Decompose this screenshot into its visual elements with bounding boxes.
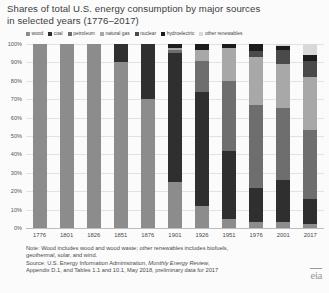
bar-stack [303,44,317,228]
bar-segment-petroleum [303,130,317,198]
y-axis-tick-label: 70% [11,96,22,102]
bar-segment-coal [222,151,236,219]
bar-column-1926 [189,44,216,228]
y-axis-tick-label: 10% [11,207,22,213]
x-axis-tick-label: 2017 [297,231,324,239]
bar-column-1851 [107,44,134,228]
bar-column-1776 [26,44,53,228]
source-line-1-post: , [208,260,210,266]
x-axis: 1776180118261851187619011926195119762001… [26,231,324,241]
bar-segment-coal [195,92,209,206]
bar-segment-petroleum [195,61,209,92]
y-axis-tick-label: 100% [8,41,22,47]
bar-segment-coal [249,188,263,223]
note-line-2: geothermal, solar, and wind. [26,252,294,259]
bar-stack [222,44,236,228]
bar-segment-petroleum [249,105,263,188]
legend-swatch-icon [100,32,104,36]
bar-segment-wood [33,44,47,228]
x-axis-tick-label: 1926 [189,231,216,239]
bar-stack [114,44,128,228]
bar-column-2001 [270,44,297,228]
bar-segment-wood [195,206,209,228]
x-axis-tick-label: 1901 [161,231,188,239]
bar-segment-natural-gas [249,57,263,105]
legend-label: wood [32,31,44,37]
bar-segment-nuclear [303,61,317,78]
bar-segment-natural-gas [276,64,290,108]
bar-segment-coal [303,199,317,225]
chart-title-line-2: in selected years (1776–2017) [7,15,317,27]
y-axis-tick-label: 40% [11,151,22,157]
chart-title-line-1: Shares of total U.S. energy consumption … [7,3,317,15]
grid-line [26,228,324,229]
x-axis-tick-label: 1876 [134,231,161,239]
source-line-1-pre: Source: U.S. Energy Information Administ… [26,260,148,266]
bar-segment-wood [87,44,101,228]
legend-item-nuclear: nuclear [135,31,157,37]
y-axis-tick-label: 60% [11,115,22,121]
source-line-2: Appendix D.1, and Tables 1.1 and 10.1, M… [26,267,294,274]
bar-stack [168,44,182,228]
bar-segment-wood [276,222,290,228]
bar-segment-natural-gas [222,48,236,81]
bar-stack [33,44,47,228]
bar-stack [276,44,290,228]
source-line-1: Source: U.S. Energy Information Administ… [26,260,294,267]
note-line-1: Note: Wood includes wood and wood waste;… [26,245,294,252]
legend-item-hydroelectric: hydroelectric [161,31,194,37]
bar-segment-coal [114,44,128,62]
x-axis-tick-label: 1851 [107,231,134,239]
x-axis-tick-label: 1951 [216,231,243,239]
bar-segment-wood [141,99,155,228]
legend-label: other renewables [205,31,243,37]
x-axis-tick-label: 1826 [80,231,107,239]
chart-title: Shares of total U.S. energy consumption … [7,3,317,27]
legend-label: hydroelectric [167,31,195,37]
bar-segment-wood [60,44,74,228]
legend-swatch-icon [161,32,165,36]
bar-segment-coal [168,53,182,182]
bar-segment-natural-gas [195,50,209,61]
bar-segment-wood [168,182,182,228]
y-axis-tick-label: 50% [11,133,22,139]
legend-item-natural-gas: natural gas [100,31,130,37]
source-publication: Monthly Energy Review [148,260,208,266]
bar-segment-wood [249,222,263,228]
legend-swatch-icon [48,32,52,36]
legend-item-coal: coal [48,31,62,37]
eia-logo: eia [310,268,322,281]
x-axis-tick-label: 2001 [270,231,297,239]
bar-stack [141,44,155,228]
legend-label: natural gas [105,31,129,37]
bar-column-1976 [243,44,270,228]
y-axis-tick-label: 30% [11,170,22,176]
legend-label: petroleum [73,31,95,37]
legend-swatch-icon [199,32,203,36]
x-axis-tick-label: 1976 [243,231,270,239]
bar-segment-hydroelectric [249,44,263,51]
x-axis-tick-label: 1801 [53,231,80,239]
y-axis: 100%90%80%70%60%50%40%30%20%10%0% [0,44,24,228]
bar-column-2017 [297,44,324,228]
legend-item-petroleum: petroleum [68,31,95,37]
legend-swatch-icon [135,32,139,36]
bar-segment-petroleum [276,108,290,180]
bar-segment-natural-gas [303,77,317,130]
x-axis-tick-label: 1776 [26,231,53,239]
bar-segment-petroleum [222,81,236,151]
y-axis-tick-label: 0% [14,225,22,231]
bar-stack [87,44,101,228]
bar-segment-coal [276,180,290,222]
bar-stack [195,44,209,228]
bar-column-1901 [161,44,188,228]
bar-stack [249,44,263,228]
bar-segment-nuclear [276,50,290,65]
bar-column-1951 [216,44,243,228]
legend-label: coal [54,31,63,37]
bar-segment-wood [114,62,128,228]
legend-item-wood: wood [26,31,43,37]
bar-column-1826 [80,44,107,228]
legend-item-other-renewables: other renewables [199,31,242,37]
bar-segment-coal [141,44,155,99]
